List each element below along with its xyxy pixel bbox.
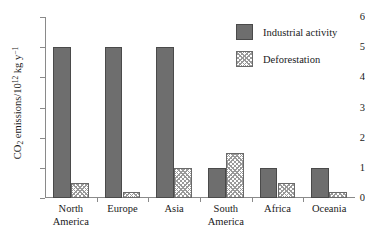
legend-item-industrial-activity: Industrial activity [236, 24, 337, 40]
bar-solid-oceania [311, 168, 329, 198]
x-axis-label-line: Africa [252, 203, 304, 216]
bar-hatch-south-america [226, 153, 244, 198]
x-axis-label-line: America [200, 216, 252, 229]
y-axis-title-exponent: 12 [11, 76, 20, 84]
y-axis-title-unit-exponent: −1 [11, 47, 20, 55]
x-axis-label-north-america: NorthAmerica [45, 203, 97, 228]
bar-hatch-europe [123, 192, 141, 198]
y-axis-title-unit: kg y [12, 55, 23, 76]
bar-hatch-africa [278, 183, 296, 198]
co2-emissions-bar-chart: CO2 emissions/1012 kg y−1 0123456 NorthA… [0, 0, 365, 244]
x-axis-label-line: South [200, 203, 252, 216]
x-axis-label-line: Asia [148, 203, 200, 216]
x-axis-label-line: Oceania [303, 203, 355, 216]
x-axis-label-oceania: Oceania [303, 203, 355, 216]
x-axis-label-line: America [45, 216, 97, 229]
y-axis-title-prefix: CO [12, 145, 23, 160]
x-axis-separator [303, 198, 304, 202]
bar-solid-asia [156, 47, 174, 198]
y-axis-title-mid: emissions/10 [12, 83, 23, 140]
y-axis-tick [40, 198, 45, 199]
bar-solid-europe [105, 47, 123, 198]
x-axis-label-europe: Europe [97, 203, 149, 216]
x-axis-label-asia: Asia [148, 203, 200, 216]
x-axis-separator [148, 198, 149, 202]
legend-item-deforestation: Deforestation [236, 51, 337, 67]
x-axis-separator [252, 198, 253, 202]
bar-solid-south-america [208, 168, 226, 198]
x-axis-label-south-america: SouthAmerica [200, 203, 252, 228]
x-axis-label-line: North [45, 203, 97, 216]
x-axis-label-line: Europe [97, 203, 149, 216]
bar-solid-africa [260, 168, 278, 198]
y-axis-title-subscript: 2 [16, 141, 25, 145]
legend-label-industrial-activity: Industrial activity [263, 27, 337, 38]
x-axis-separator [200, 198, 201, 202]
legend-swatch-industrial-activity [236, 24, 253, 40]
bar-hatch-asia [174, 168, 192, 198]
x-axis-separator [97, 198, 98, 202]
bar-solid-north-america [53, 47, 71, 198]
y-axis-title: CO2 emissions/1012 kg y−1 [11, 8, 25, 198]
bar-hatch-north-america [71, 183, 89, 198]
bar-hatch-oceania [329, 192, 347, 198]
legend-label-deforestation: Deforestation [263, 54, 320, 65]
legend-swatch-deforestation [236, 51, 253, 67]
legend: Industrial activity Deforestation [236, 24, 337, 78]
x-axis-label-africa: Africa [252, 203, 304, 216]
